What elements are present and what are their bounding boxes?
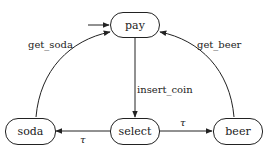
label-get-beer: get_beer: [197, 39, 241, 50]
label-tau-beer: τ: [180, 117, 186, 128]
state-select-label: select: [119, 125, 152, 138]
label-insert-coin: insert_coin: [137, 84, 193, 95]
state-select: select: [110, 118, 160, 145]
state-soda: soda: [5, 118, 56, 145]
state-pay: pay: [110, 12, 160, 38]
state-beer: beer: [213, 118, 263, 145]
label-get-soda: get_soda: [28, 39, 73, 50]
state-beer-label: beer: [225, 125, 250, 138]
state-pay-label: pay: [125, 19, 145, 32]
label-tau-soda: τ: [80, 134, 86, 145]
state-soda-label: soda: [18, 125, 44, 138]
